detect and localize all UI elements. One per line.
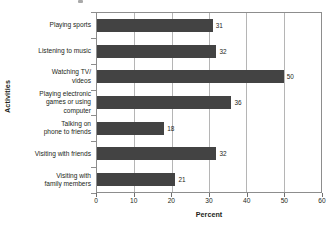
bar-row: 32 — [97, 39, 321, 65]
bar[interactable] — [97, 70, 284, 83]
bar[interactable] — [97, 147, 216, 160]
bar-value-label: 21 — [178, 175, 185, 182]
bar-row: 36 — [97, 90, 321, 116]
category-label-column: Playing sportsListening to musicWatching… — [14, 12, 94, 193]
x-axis-tick-label: 30 — [205, 197, 212, 204]
x-axis-tick-label: 20 — [168, 197, 175, 204]
x-axis-title: Percent — [96, 210, 322, 219]
bar-value-label: 32 — [219, 47, 226, 54]
x-axis-tick-labels: 0102030405060 — [96, 197, 322, 208]
category-label-line: Playing electronic — [39, 90, 91, 98]
category-label-line: Talking on — [44, 120, 91, 128]
category-label: Visiting with friends — [14, 141, 94, 167]
bar-value-label: 36 — [234, 99, 241, 106]
bar[interactable] — [97, 173, 175, 186]
category-label-line: Watching TV/ — [52, 68, 91, 76]
bar[interactable] — [97, 122, 164, 135]
category-label: Talking onphone to friends — [14, 115, 94, 141]
bar-value-label: 18 — [167, 124, 174, 131]
bar[interactable] — [97, 19, 213, 32]
top-edge-artifact — [78, 0, 83, 3]
category-label-line: Visiting with — [44, 172, 91, 180]
y-axis-title: Activities — [0, 0, 14, 193]
category-label: Visiting withfamily members — [14, 167, 94, 193]
category-label: Watching TV/videos — [14, 64, 94, 90]
bar[interactable] — [97, 96, 231, 109]
bar[interactable] — [97, 45, 216, 58]
x-axis-tick-label: 40 — [243, 197, 250, 204]
bars-layer: 31325036183221 — [97, 13, 321, 192]
bar-value-label: 32 — [219, 150, 226, 157]
bar-value-label: 50 — [287, 73, 294, 80]
category-label-line: phone to friends — [44, 128, 91, 136]
bar-row: 21 — [97, 166, 321, 192]
plot-area: 31325036183221 — [96, 12, 322, 193]
x-axis-tick-label: 10 — [130, 197, 137, 204]
x-axis-tick-label: 0 — [94, 197, 98, 204]
x-axis-tick-label: 50 — [281, 197, 288, 204]
category-label: Playing electronicgames or usingcomputer — [14, 90, 94, 116]
bar-row: 31 — [97, 13, 321, 39]
bar-row: 50 — [97, 64, 321, 90]
y-axis-title-label: Activities — [3, 80, 12, 113]
bar-value-label: 31 — [216, 22, 223, 29]
category-label-line: Listening to music — [38, 47, 91, 55]
category-label-line: videos — [52, 77, 91, 85]
category-label-line: Playing sports — [50, 21, 91, 29]
bar-row: 32 — [97, 141, 321, 167]
category-label-line: Visiting with friends — [35, 150, 91, 158]
category-label-line: computer — [39, 107, 91, 115]
category-label-line: family members — [44, 180, 91, 188]
bar-row: 18 — [97, 115, 321, 141]
category-label: Listening to music — [14, 38, 94, 64]
category-label-line: games or using — [39, 98, 91, 106]
bar-chart: Activities Playing sportsListening to mu… — [0, 0, 336, 231]
x-axis-tick-label: 60 — [318, 197, 325, 204]
category-label: Playing sports — [14, 12, 94, 38]
